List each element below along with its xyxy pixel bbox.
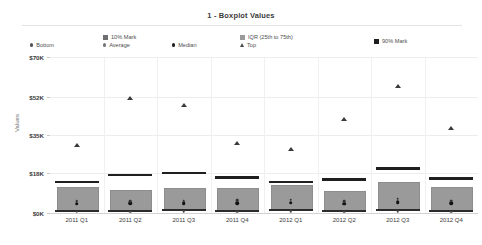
median-marker [182, 201, 186, 205]
x-axis-tick-label: 2011 Q1 [65, 217, 88, 223]
average-marker [450, 199, 453, 202]
bottom-marker [129, 210, 132, 213]
y-axis-ticks: $0K$18K$35K$52K$70K [8, 0, 44, 245]
y-axis-tick-label: $18K [14, 169, 44, 176]
average-marker [343, 200, 346, 203]
bottom-marker [450, 210, 453, 213]
x-axis-tick-label: 2011 Q3 [172, 217, 195, 223]
bottom-marker [396, 210, 399, 213]
y-axis-tick-label: $0K [14, 210, 44, 217]
iqr-box[interactable] [57, 187, 99, 211]
median-marker [396, 201, 400, 205]
mark-90-percent [55, 181, 99, 183]
mark-90-percent [429, 177, 473, 179]
bottom-marker [182, 210, 185, 213]
top-marker [288, 147, 294, 151]
top-marker [234, 141, 240, 145]
average-marker [289, 198, 292, 201]
top-marker [74, 143, 80, 147]
average-marker [396, 197, 399, 200]
x-axis-tick-label: 2012 Q1 [279, 217, 302, 223]
median-marker [289, 201, 293, 205]
mark-90-percent [376, 167, 420, 169]
median-marker [235, 201, 239, 205]
top-marker [448, 126, 454, 130]
mark-90-percent [215, 176, 259, 178]
average-marker [129, 200, 132, 203]
average-marker [75, 200, 78, 203]
bottom-marker [75, 210, 78, 213]
median-marker [449, 201, 453, 205]
mark-90-percent [269, 181, 313, 183]
mark-90-percent [162, 172, 206, 174]
mark-90-percent [322, 178, 366, 180]
average-marker [236, 199, 239, 202]
top-marker [181, 103, 187, 107]
top-marker [341, 117, 347, 121]
bottom-marker [343, 210, 346, 213]
y-axis-tick-label: $70K [14, 54, 44, 61]
iqr-box[interactable] [378, 182, 420, 210]
average-marker [182, 199, 185, 202]
x-axis-tick-label: 2011 Q4 [226, 217, 249, 223]
x-axis-tick-label: 2011 Q2 [119, 217, 142, 223]
y-axis-tick-label: $52K [14, 94, 44, 101]
y-axis-tick-label: $35K [14, 132, 44, 139]
top-marker [395, 84, 401, 88]
boxplot-chart: 1 - Boxplot Values Bottom10% MarkAverage… [0, 0, 482, 245]
top-marker [127, 96, 133, 100]
x-axis-tick-label: 2012 Q4 [440, 217, 463, 223]
mark-90-percent [108, 174, 152, 176]
bottom-marker [236, 210, 239, 213]
x-axis-tick-label: 2012 Q2 [333, 217, 356, 223]
plot-area: 2011 Q12011 Q22011 Q32011 Q42012 Q12012 … [50, 0, 478, 245]
bottom-marker [289, 210, 292, 213]
x-axis-tick-label: 2012 Q3 [386, 217, 409, 223]
